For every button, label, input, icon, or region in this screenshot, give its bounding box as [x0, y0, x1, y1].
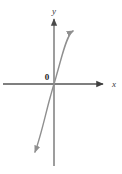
- x-axis-label: x: [111, 79, 116, 89]
- origin-label: 0: [45, 72, 50, 82]
- y-axis-label: y: [51, 6, 56, 16]
- graph-figure: y x 0: [0, 0, 122, 174]
- coordinate-graph: y x 0: [0, 0, 122, 174]
